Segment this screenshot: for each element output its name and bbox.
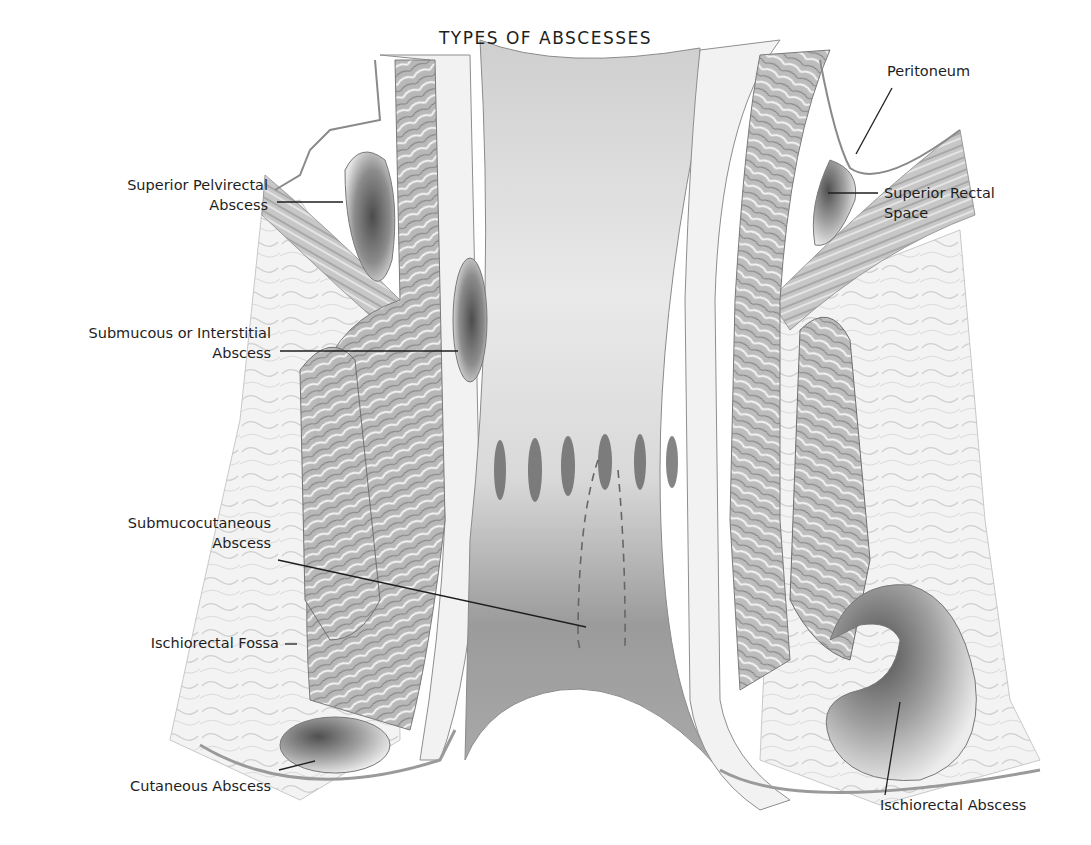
- label-submucous-interstitial-abscess: Submucous or Interstitial Abscess: [89, 323, 271, 363]
- label-submucocutaneous-abscess: Submucocutaneous Abscess: [128, 513, 271, 553]
- rectal-lumen: [465, 40, 720, 770]
- label-superior-pelvirectal-abscess: Superior Pelvirectal Abscess: [127, 175, 268, 215]
- leader-peritoneum: [856, 88, 892, 154]
- cutaneous-abscess: [280, 717, 390, 773]
- submucous-interstitial-abscess: [453, 258, 487, 382]
- anorectal-cross-section-drawing: [0, 0, 1091, 845]
- label-ischiorectal-fossa: Ischiorectal Fossa: [151, 633, 279, 653]
- anatomical-illustration: TYPES OF ABSCESSES Superior Pelvirectal …: [0, 0, 1091, 845]
- label-peritoneum: Peritoneum: [887, 61, 970, 81]
- label-ischiorectal-abscess: Ischiorectal Abscess: [880, 795, 1026, 815]
- label-cutaneous-abscess: Cutaneous Abscess: [130, 776, 271, 796]
- figure-title: TYPES OF ABSCESSES: [0, 28, 1091, 48]
- label-superior-rectal-space: Superior Rectal Space: [884, 183, 995, 223]
